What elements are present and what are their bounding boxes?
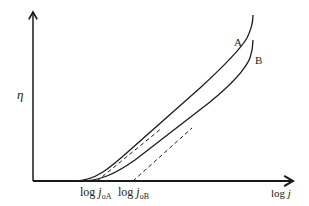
- curve-a-label: A: [234, 36, 242, 48]
- tafel-extrapolation-a: [97, 128, 162, 181]
- curve-b-label: B: [255, 54, 262, 66]
- intercept-label-b: log joB: [118, 185, 149, 201]
- intercept-a-prefix: log: [80, 185, 98, 199]
- intercept-b-sub: oB: [140, 192, 149, 201]
- y-axis-label: η: [17, 87, 23, 102]
- x-axis-label: log j: [271, 187, 291, 199]
- curve-a: [33, 15, 253, 181]
- intercept-label-a: log joA: [80, 185, 112, 201]
- intercept-a-sub: oA: [102, 192, 112, 201]
- x-axis-prefix: log: [271, 187, 288, 199]
- intercept-b-prefix: log: [118, 185, 136, 199]
- tafel-diagram: η A B log joA log joB log j: [0, 0, 309, 206]
